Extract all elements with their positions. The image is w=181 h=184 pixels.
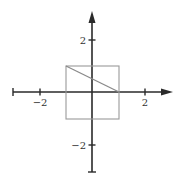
y-tick-label-neg2: −2 — [71, 140, 86, 151]
x-axis: −2 2 — [13, 88, 173, 108]
coordinate-diagram: −2 2 2 −2 — [0, 0, 181, 184]
x-tick-label-pos2: 2 — [142, 97, 148, 108]
x-axis-arrowhead-icon — [161, 89, 173, 96]
x-tick-label-neg2: −2 — [33, 97, 48, 108]
y-tick-label-pos2: 2 — [80, 35, 86, 46]
y-axis-arrowhead-icon — [89, 11, 96, 23]
